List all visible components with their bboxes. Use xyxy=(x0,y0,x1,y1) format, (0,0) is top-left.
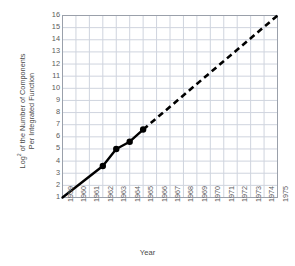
x-axis-tick-label: 1961 xyxy=(92,186,101,202)
x-axis-tick-label: 1967 xyxy=(173,186,182,202)
x-axis-tick-label: 1971 xyxy=(227,186,236,202)
x-axis-tick-label: 1962 xyxy=(106,186,115,202)
x-axis-tick-label: 1972 xyxy=(240,186,249,202)
x-axis-tick-label: 1964 xyxy=(133,186,142,202)
x-axis-tick-label: 1970 xyxy=(213,186,222,202)
x-axis-tick-label: 1973 xyxy=(254,186,263,202)
x-axis-tick-labels: 1959196019611962196319641965196619671968… xyxy=(0,0,295,266)
x-axis-tick-label: 1975 xyxy=(281,186,290,202)
x-axis-tick-label: 1965 xyxy=(146,186,155,202)
x-axis-tick-label: 1963 xyxy=(119,186,128,202)
x-axis-tick-label: 1974 xyxy=(267,186,276,202)
x-axis-tick-label: 1959 xyxy=(66,186,75,202)
x-axis-title: Year xyxy=(0,248,295,257)
x-axis-tick-label: 1969 xyxy=(200,186,209,202)
x-axis-tick-label: 1966 xyxy=(160,186,169,202)
moores-law-chart: Log2 of the Number of Components Per Int… xyxy=(0,0,295,266)
x-axis-tick-label: 1960 xyxy=(79,186,88,202)
x-axis-tick-label: 1968 xyxy=(186,186,195,202)
